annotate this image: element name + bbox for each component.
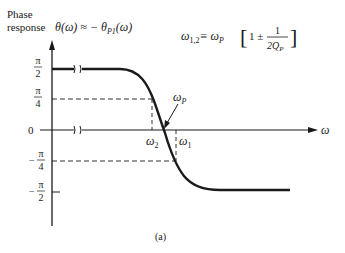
y-tick-neg-pi-4: − π 4 [29, 148, 45, 172]
svg-text:2: 2 [36, 68, 41, 79]
svg-text:1: 1 [275, 25, 280, 36]
figure-caption: (a) [155, 231, 166, 243]
svg-text:4: 4 [39, 161, 44, 172]
svg-text:[: [ [240, 24, 247, 49]
svg-text:−: − [29, 155, 35, 166]
svg-text:π: π [35, 85, 40, 96]
curve-label: θ(ω) ≈ − θP1(ω) [55, 20, 132, 36]
y-tick-neg-pi-2: − π 2 [29, 179, 45, 203]
y-tick-pi-2: π 2 [34, 55, 42, 79]
svg-text:ω1,2≡ ωP: ω1,2≡ ωP [181, 29, 224, 45]
svg-text:π: π [38, 179, 43, 190]
bandwidth-formula: ω1,2≡ ωP [ 1 ± 1 2QP ] [181, 24, 297, 53]
y-axis-label-line1: Phase [7, 8, 33, 20]
axis-break-lower-icon [74, 125, 82, 135]
omega-1-label: ω1 [179, 134, 191, 150]
y-tick-zero: 0 [28, 124, 34, 136]
y-tick-pi-4: π 4 [34, 85, 42, 109]
svg-text:]: ] [290, 24, 297, 49]
svg-text:π: π [35, 55, 40, 66]
svg-text:1 ±: 1 ± [249, 30, 263, 42]
y-axis-label-line2: response [7, 21, 46, 33]
svg-text:2: 2 [39, 192, 44, 203]
svg-text:4: 4 [36, 98, 41, 109]
y-axis-arrow-icon [49, 40, 55, 50]
svg-text:2QP: 2QP [267, 40, 284, 53]
svg-text:−: − [29, 186, 35, 197]
x-axis-arrow-icon [308, 127, 318, 133]
x-axis-label: ω [321, 123, 329, 137]
omega-p-arrow-icon [164, 120, 170, 129]
omega-2-label: ω2 [146, 134, 158, 150]
phase-response-diagram: Phase response θ(ω) ≈ − θP1(ω) ω1,2≡ ωP … [0, 0, 345, 253]
svg-text:π: π [38, 148, 43, 159]
omega-p-label: ωP [173, 90, 186, 106]
omega-p-pointer [167, 104, 178, 123]
axis-break-upper-icon [74, 64, 82, 74]
